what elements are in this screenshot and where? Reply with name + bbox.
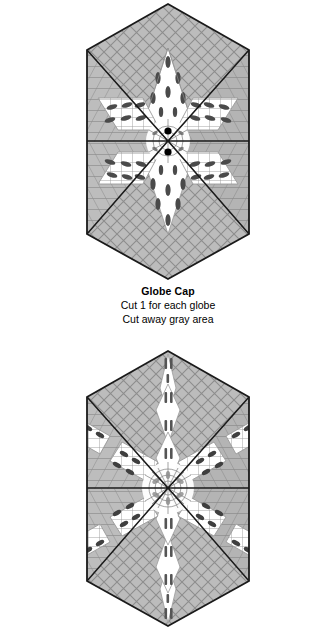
caption-line-2: Cut away gray area [0, 312, 336, 326]
globe-cap-panel: Globe Cap Cut 1 for each globe Cut away … [0, 0, 336, 290]
center-dot-upper [164, 127, 171, 134]
caption-line-1: Cut 1 for each globe [0, 298, 336, 312]
globe-cap-caption: Globe Cap Cut 1 for each globe Cut away … [0, 284, 336, 326]
globe-half-diagram [0, 348, 336, 633]
globe-cap-figure [0, 0, 336, 284]
globe-half-panel: Globe Top Half & Bottom Half [0, 348, 336, 639]
globe-cap-diagram [0, 0, 336, 284]
globe-half-figure [0, 348, 336, 633]
caption-title: Globe Cap [0, 284, 336, 298]
pattern-sheet: Globe Cap Cut 1 for each globe Cut away … [0, 0, 336, 639]
center-dot-lower [164, 148, 171, 155]
